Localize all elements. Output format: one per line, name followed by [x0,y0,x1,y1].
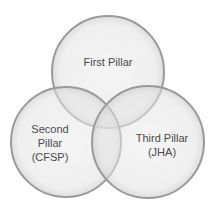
venn-diagram: First Pillar Second Pillar (CFSP) Third … [0,0,215,214]
label-second-pillar-line3: (CFSP) [32,151,69,163]
label-first-pillar: First Pillar [84,56,133,68]
label-second-pillar-line2: Pillar [38,137,63,149]
label-second-pillar-line1: Second [31,123,68,135]
label-third-pillar-line2: (JHA) [148,146,176,158]
label-third-pillar-line1: Third Pillar [136,132,189,144]
